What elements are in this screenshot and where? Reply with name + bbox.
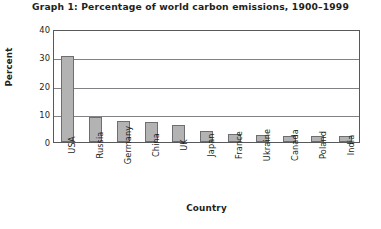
- x-tick-slot: Japan: [193, 145, 221, 195]
- x-tick-slot: France: [220, 145, 248, 195]
- bar-slot: [193, 31, 221, 142]
- y-axis-tick-labels: 010203040: [0, 30, 50, 143]
- x-tick-label: Canada: [290, 129, 300, 161]
- bar-slot: [165, 31, 193, 142]
- y-tick-label: 0: [6, 139, 50, 147]
- x-tick-label: Japan: [206, 133, 216, 156]
- bar-slot: [137, 31, 165, 142]
- x-tick-slot: Poland: [304, 145, 332, 195]
- bar-slot: [54, 31, 82, 142]
- plot-area: [53, 30, 360, 143]
- bar-usa: [61, 56, 74, 142]
- bar-slot: [82, 31, 110, 142]
- x-tick-slot: India: [332, 145, 360, 195]
- x-tick-label: India: [346, 135, 356, 156]
- bar-slot: [248, 31, 276, 142]
- y-tick-label: 30: [6, 54, 50, 62]
- x-tick-slot: Canada: [276, 145, 304, 195]
- x-tick-slot: China: [137, 145, 165, 195]
- y-tick-label: 40: [6, 26, 50, 34]
- bar-slot: [331, 31, 359, 142]
- x-tick-label: France: [234, 131, 244, 159]
- x-tick-label: Russia: [95, 132, 105, 159]
- bar-slot: [220, 31, 248, 142]
- x-tick-slot: Russia: [81, 145, 109, 195]
- x-tick-slot: Ukraine: [248, 145, 276, 195]
- x-tick-label: China: [151, 133, 161, 157]
- x-axis-tick-labels: USARussiaGermanyChinaUKJapanFranceUkrain…: [53, 145, 360, 195]
- y-tick-label: 10: [6, 111, 50, 119]
- x-tick-label: USA: [67, 136, 77, 153]
- chart-figure: Graph 1: Percentage of world carbon emis…: [0, 0, 381, 229]
- bar-series: [54, 31, 359, 142]
- x-tick-label: Germany: [123, 126, 133, 164]
- bar-slot: [276, 31, 304, 142]
- x-tick-slot: USA: [53, 145, 81, 195]
- x-tick-label: Poland: [318, 131, 328, 159]
- x-tick-label: UK: [179, 139, 189, 151]
- y-tick-label: 20: [6, 83, 50, 91]
- x-tick-slot: Germany: [109, 145, 137, 195]
- chart-title: Graph 1: Percentage of world carbon emis…: [0, 1, 381, 12]
- x-tick-slot: UK: [165, 145, 193, 195]
- x-axis-title: Country: [53, 203, 360, 213]
- x-tick-label: Ukraine: [262, 129, 272, 161]
- bar-slot: [304, 31, 332, 142]
